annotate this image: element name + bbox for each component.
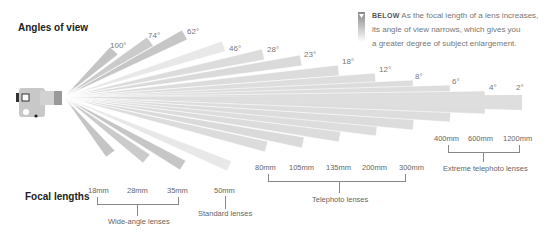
- caption-tag: BELOW: [372, 12, 400, 19]
- focal-label: 135mm: [326, 163, 351, 172]
- extreme-telephoto-stem: [483, 152, 484, 162]
- extreme-telephoto-bracket: [448, 145, 520, 153]
- caption-line-2: its angle of view narrows, which gives y…: [372, 25, 521, 34]
- focal-label: 80mm: [255, 163, 276, 172]
- angle-label: 74°: [148, 31, 160, 40]
- angle-label: 18°: [342, 57, 354, 66]
- angle-label: 23°: [304, 50, 316, 59]
- focal-lengths-heading: Focal lengths: [25, 191, 89, 202]
- extreme-telephoto-label: Extreme telephoto lenses: [443, 164, 528, 173]
- focal-label: 600mm: [468, 134, 493, 143]
- angle-label: 62°: [187, 27, 199, 36]
- telephoto-label: Telephoto lenses: [312, 195, 368, 204]
- focal-label: 50mm: [214, 186, 235, 195]
- wide-angle-bracket: [97, 197, 179, 205]
- angle-label: 12°: [379, 65, 391, 74]
- caption-line-3: a greater degree of subject enlargement.: [372, 39, 517, 48]
- angle-label: 4°: [489, 83, 497, 92]
- wide-angle-label: Wide-angle lenses: [108, 217, 170, 226]
- triangle-down-icon: [358, 12, 365, 42]
- angle-label: 46°: [229, 44, 241, 53]
- focal-label: 200mm: [362, 163, 387, 172]
- angle-label: 100°: [110, 41, 127, 50]
- focal-label: 105mm: [289, 163, 314, 172]
- telephoto-stem: [339, 181, 340, 193]
- focal-label: 28mm: [127, 186, 148, 195]
- angle-label: 8°: [415, 72, 423, 81]
- angle-label: 2°: [516, 83, 524, 92]
- caption-line-1: As the focal length of a lens increases,: [401, 11, 538, 20]
- focal-label: 1200mm: [503, 134, 532, 143]
- standard-label: Standard lenses: [198, 209, 252, 218]
- angles-of-view-heading: Angles of view: [18, 22, 88, 33]
- telephoto-bracket: [268, 174, 406, 182]
- camera-icon: [16, 88, 62, 118]
- angle-label: 28°: [267, 45, 279, 54]
- focal-label: 35mm: [167, 186, 188, 195]
- focal-label: 18mm: [88, 186, 109, 195]
- wide-angle-stem: [137, 204, 138, 216]
- angle-label: 6°: [452, 77, 460, 86]
- focal-label: 400mm: [434, 134, 459, 143]
- standard-stem: [225, 196, 226, 209]
- caption: BELOW As the focal length of a lens incr…: [372, 9, 538, 51]
- focal-label: 300mm: [399, 163, 424, 172]
